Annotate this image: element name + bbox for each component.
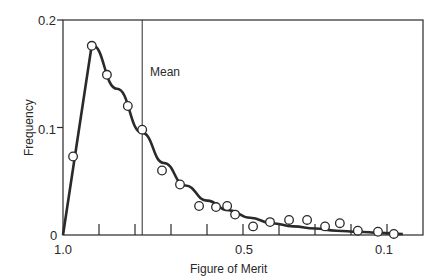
fitted-curve xyxy=(63,45,403,235)
x-axis-title: Figure of Merit xyxy=(190,262,268,276)
data-point xyxy=(390,230,399,239)
y-axis-title: Frequency xyxy=(22,99,36,156)
data-point xyxy=(249,222,258,231)
data-point xyxy=(212,203,221,212)
data-point xyxy=(223,202,232,211)
frame-border xyxy=(63,20,423,235)
x-tick-label-0.1: 0.1 xyxy=(375,242,393,257)
data-point xyxy=(374,227,383,236)
data-point xyxy=(195,202,204,211)
data-point xyxy=(266,218,275,227)
plot-frame xyxy=(63,20,423,235)
data-point xyxy=(303,216,312,225)
y-tick-label-0.1: 0.1 xyxy=(38,122,56,137)
mean-label: Mean xyxy=(150,65,180,79)
y-tick-label-0.2: 0.2 xyxy=(38,13,56,28)
y-tick-label-0: 0 xyxy=(50,228,57,243)
axis-ticks xyxy=(57,20,387,235)
data-point xyxy=(336,219,345,228)
data-point xyxy=(88,42,97,51)
data-point xyxy=(103,71,112,80)
fitted-curve-path xyxy=(63,45,403,235)
data-point xyxy=(285,216,294,225)
data-point xyxy=(69,152,78,161)
data-point xyxy=(124,102,133,111)
data-point xyxy=(354,226,363,235)
data-point xyxy=(231,210,240,219)
data-point xyxy=(176,180,185,189)
data-point xyxy=(138,125,147,134)
data-point xyxy=(321,222,330,231)
x-tick-label-1.0: 1.0 xyxy=(54,242,72,257)
data-point xyxy=(158,166,167,175)
x-tick-label-0.5: 0.5 xyxy=(235,242,253,257)
data-points xyxy=(69,42,398,239)
figure-of-merit-chart: 0.2 0.1 0 1.0 0.5 0.1 Figure of Merit Fr… xyxy=(0,0,445,280)
